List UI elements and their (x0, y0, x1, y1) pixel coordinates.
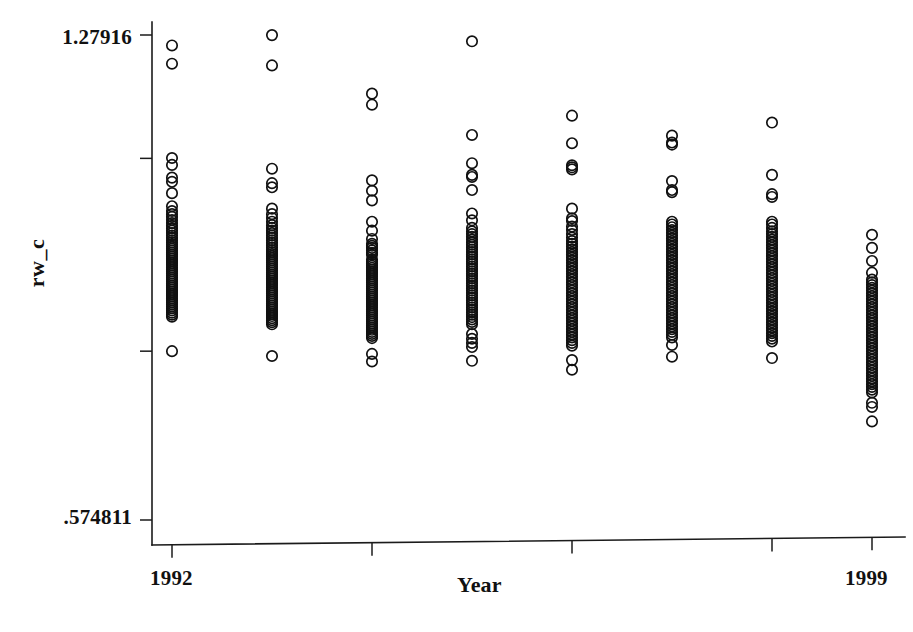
x-axis-last-tick-label: 1999 (845, 566, 888, 591)
data-point-marker (267, 163, 277, 173)
data-point-marker (167, 346, 177, 356)
data-point-marker (767, 170, 777, 180)
data-point-marker (467, 356, 477, 366)
data-point-marker (167, 160, 177, 170)
axes-group (152, 22, 905, 545)
data-point-marker (267, 60, 277, 70)
scatter-plot-figure: 1.27916 .574811 1992 1999 Year rw_c (0, 0, 913, 632)
data-point-marker (567, 110, 577, 120)
data-point-marker (367, 88, 377, 98)
data-point-marker (367, 99, 377, 109)
x-axis-line (152, 537, 905, 545)
data-point-marker (467, 36, 477, 46)
data-point-marker (367, 175, 377, 185)
data-point-marker (167, 58, 177, 68)
data-point-marker (867, 230, 877, 240)
data-point-marker (567, 138, 577, 148)
data-point-marker (767, 117, 777, 127)
y-axis-ticks (140, 35, 152, 520)
data-point-marker (867, 256, 877, 266)
data-point-marker (167, 188, 177, 198)
data-point-marker (867, 416, 877, 426)
y-axis-max-tick-label: 1.27916 (62, 25, 132, 50)
data-point-marker (667, 351, 677, 361)
data-point-marker (467, 158, 477, 168)
data-points-group (167, 30, 877, 427)
data-point-marker (467, 185, 477, 195)
data-point-marker (467, 130, 477, 140)
data-point-marker (667, 340, 677, 350)
data-point-marker (867, 243, 877, 253)
data-point-marker (267, 351, 277, 361)
data-point-marker (767, 353, 777, 363)
x-axis-title: Year (457, 572, 502, 598)
y-axis-title: rw_c (24, 218, 50, 308)
data-point-marker (367, 356, 377, 366)
x-axis-first-tick-label: 1992 (150, 566, 193, 591)
data-point-marker (167, 40, 177, 50)
y-axis-min-tick-label: .574811 (64, 505, 133, 530)
data-point-marker (267, 30, 277, 40)
plot-canvas (0, 0, 913, 632)
